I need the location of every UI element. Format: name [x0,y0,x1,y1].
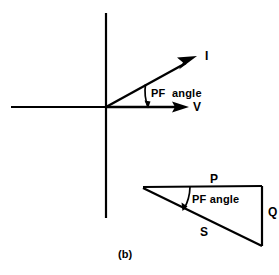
figure-caption: (b) [118,249,132,260]
voltage-vector-label: V [193,101,201,113]
reactive-power-label: Q [268,206,277,218]
current-vector-label: I [205,50,208,62]
apparent-power-label: S [200,226,208,238]
figure-container: V I PF angle P Q S PF angle (b) [0,0,279,275]
real-power-label: P [210,173,218,185]
diagram-canvas [0,0,279,275]
pf-angle-label-triangle: PF angle [192,194,239,205]
real-power-side [143,186,262,187]
pf-angle-label-phasor: PF angle [151,88,202,99]
